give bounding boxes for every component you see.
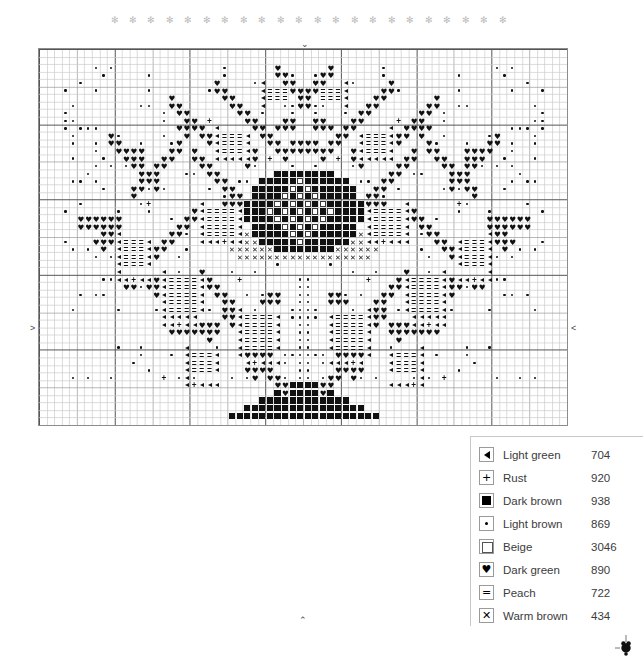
snowflake-icon: ✻ xyxy=(387,16,396,25)
legend-color-name: Dark brown xyxy=(503,495,591,507)
legend-thread-code: 722 xyxy=(591,587,610,599)
legend-panel: Light green704+Rust920Dark brown938Light… xyxy=(470,436,643,626)
center-marker-bottom: ⌃ xyxy=(299,616,307,625)
snowflake-icon: ✻ xyxy=(239,16,248,25)
legend-thread-code: 890 xyxy=(591,564,610,576)
legend-thread-code: 704 xyxy=(591,449,610,461)
snowflake-icon: ✻ xyxy=(369,16,378,25)
fsq-symbol-icon xyxy=(479,493,494,508)
eq-symbol-icon: = xyxy=(479,585,494,600)
legend-thread-code: 920 xyxy=(591,472,610,484)
legend-color-name: Dark green xyxy=(503,564,591,576)
dot-symbol-icon xyxy=(479,516,494,531)
legend-row: Beige3046 xyxy=(479,535,643,558)
chart-grid xyxy=(39,49,567,425)
snowflake-icon: ✻ xyxy=(443,16,452,25)
legend-color-name: Light green xyxy=(503,449,591,461)
plus-symbol-icon: + xyxy=(479,470,494,485)
snowflake-icon: ✻ xyxy=(480,16,489,25)
snowflake-icon: ✻ xyxy=(461,16,470,25)
snowflake-icon: ✻ xyxy=(110,16,119,25)
legend-row: Light green704 xyxy=(479,443,643,466)
legend-color-name: Beige xyxy=(503,541,591,553)
legend-color-name: Peach xyxy=(503,587,591,599)
legend-thread-code: 869 xyxy=(591,518,610,530)
snowflake-icon: ✻ xyxy=(258,16,267,25)
center-marker-right: < xyxy=(571,324,576,333)
cross-stitch-chart: ♥♥✕✕====✕✕++✕✕✕✕✕✕✕✕✕✕✕✕✕✕✕✕✕✕✕✕✕✕✕✕✕✕✕✕… xyxy=(38,48,568,426)
snowflake-icon: ✻ xyxy=(147,16,156,25)
snowflake-icon: ✻ xyxy=(184,16,193,25)
snowflake-icon: ✻ xyxy=(221,16,230,25)
legend-thread-code: 3046 xyxy=(591,541,617,553)
x-symbol-icon: ✕ xyxy=(479,608,494,623)
legend-row: ✕Warm brown434 xyxy=(479,604,643,627)
tri-symbol-icon xyxy=(479,447,494,462)
top-decoration-row: ✻✻✻✻✻✻✻✻✻✻✻✻✻✻✻✻✻✻✻✻✻✻ xyxy=(0,16,643,36)
snowflake-icon: ✻ xyxy=(202,16,211,25)
snowflake-icon: ✻ xyxy=(406,16,415,25)
snowflake-icon: ✻ xyxy=(313,16,322,25)
legend-thread-code: 938 xyxy=(591,495,610,507)
legend-row: Light brown869 xyxy=(479,512,643,535)
legend-row: +Rust920 xyxy=(479,466,643,489)
legend-color-name: Warm brown xyxy=(503,610,591,622)
center-marker-left: > xyxy=(30,324,35,333)
snowflake-icon: ✻ xyxy=(276,16,285,25)
legend-color-name: Rust xyxy=(503,472,591,484)
heart-symbol-icon: ♥ xyxy=(479,562,494,577)
snowflake-icon: ✻ xyxy=(165,16,174,25)
legend-row: =Peach722 xyxy=(479,581,643,604)
snowflake-icon: ✻ xyxy=(332,16,341,25)
osq-symbol-icon xyxy=(479,539,494,554)
snowflake-icon: ✻ xyxy=(295,16,304,25)
legend-row: Dark brown938 xyxy=(479,489,643,512)
corner-ornament-icon xyxy=(613,632,639,658)
snowflake-icon: ✻ xyxy=(350,16,359,25)
snowflake-icon: ✻ xyxy=(128,16,137,25)
snowflake-icon: ✻ xyxy=(498,16,507,25)
legend-row: ♥Dark green890 xyxy=(479,558,643,581)
snowflake-icon: ✻ xyxy=(424,16,433,25)
legend-color-name: Light brown xyxy=(503,518,591,530)
legend-thread-code: 434 xyxy=(591,610,610,622)
